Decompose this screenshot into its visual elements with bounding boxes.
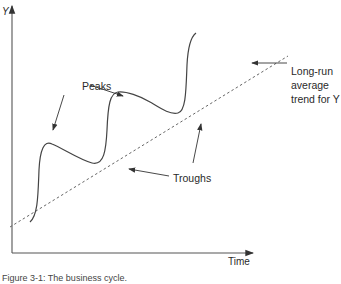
trend-label-line-2: average <box>291 78 340 92</box>
trend-label-line-3: trend for Y <box>291 92 340 106</box>
y-axis-label: Y <box>2 6 9 18</box>
axes <box>12 6 253 253</box>
troughs-label: Troughs <box>173 172 211 184</box>
trend-line <box>10 56 288 227</box>
trough-arrow-1 <box>129 169 169 176</box>
peak-arrow-1 <box>53 95 64 130</box>
trend-label: Long-run average trend for Y <box>291 64 340 106</box>
figure-caption: Figure 3-1: The business cycle. <box>2 272 127 284</box>
trough-arrow-2 <box>193 124 201 163</box>
trend-label-line-1: Long-run <box>291 64 340 78</box>
peaks-label: Peaks <box>82 80 111 92</box>
x-axis-label: Time <box>228 256 250 268</box>
cycle-curve <box>30 33 196 222</box>
